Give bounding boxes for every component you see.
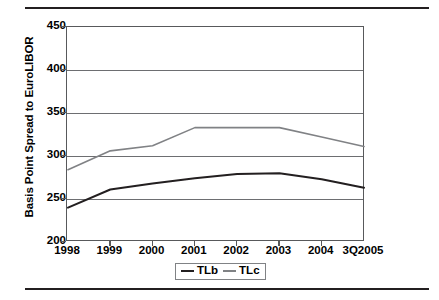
y-axis-tick-mark bbox=[60, 241, 66, 242]
x-axis-tick-mark bbox=[109, 241, 110, 246]
x-axis-tick-label: 3Q2005 bbox=[333, 245, 393, 257]
legend-item-tlb: TLb bbox=[181, 265, 218, 277]
x-axis-tick-mark bbox=[194, 241, 195, 246]
legend-item-tlc: TLc bbox=[223, 265, 259, 277]
bottom-horizontal-rule bbox=[25, 288, 429, 290]
chart-legend: TLbTLc bbox=[175, 263, 266, 280]
x-axis-tick-mark bbox=[236, 241, 237, 246]
plot-area bbox=[66, 26, 364, 241]
legend-swatch-tlc bbox=[223, 270, 236, 272]
series-line-tlc bbox=[68, 128, 364, 170]
legend-label: TLc bbox=[239, 265, 259, 277]
legend-swatch-tlb bbox=[181, 270, 194, 272]
x-axis-tick-mark bbox=[278, 241, 279, 246]
series-line-tlb bbox=[68, 173, 364, 207]
legend-label: TLb bbox=[197, 265, 218, 277]
top-horizontal-rule bbox=[25, 7, 429, 9]
x-axis-tick-mark bbox=[321, 241, 322, 246]
chart-figure: Basis Point Spread to EuroLIBOR 20025030… bbox=[0, 0, 439, 300]
series-lines bbox=[67, 27, 365, 242]
x-axis-tick-mark bbox=[152, 241, 153, 246]
